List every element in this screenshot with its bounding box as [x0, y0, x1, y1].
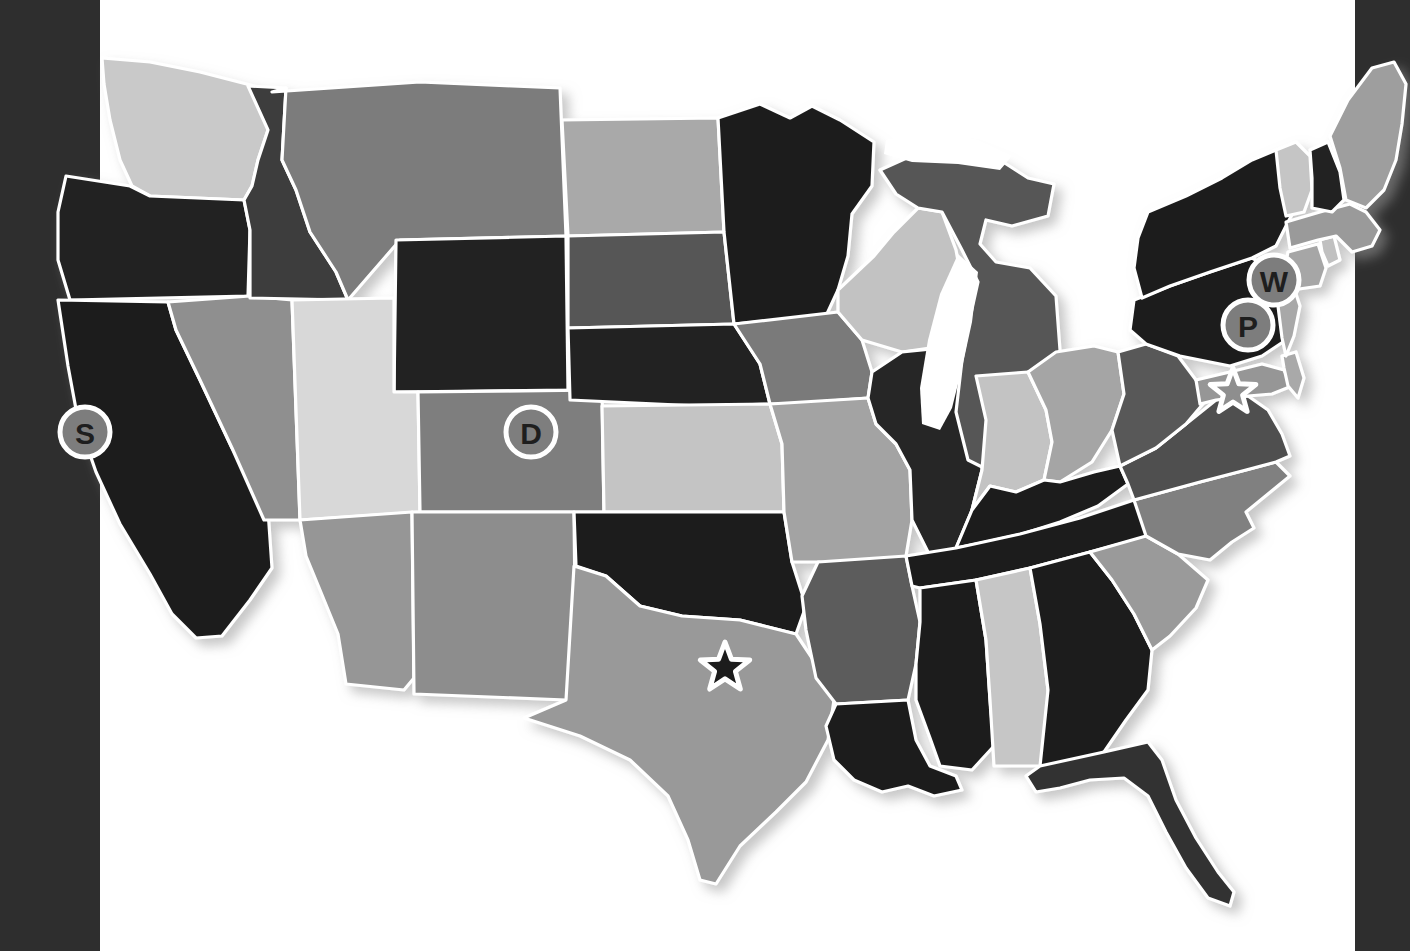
us-choropleth-map: SDWP — [0, 0, 1410, 951]
w-marker[interactable]: W — [1249, 255, 1299, 305]
state-WY[interactable] — [394, 236, 568, 392]
d-marker-label: D — [520, 417, 542, 450]
s-marker-label: S — [75, 417, 95, 450]
state-DE[interactable] — [1282, 352, 1304, 398]
state-SD[interactable] — [568, 232, 734, 328]
state-AR[interactable] — [802, 556, 920, 704]
s-marker[interactable]: S — [60, 407, 110, 457]
state-NE[interactable] — [568, 324, 770, 406]
state-FL[interactable] — [1026, 742, 1234, 906]
p-marker[interactable]: P — [1223, 300, 1273, 350]
state-CO[interactable] — [418, 390, 604, 512]
map-canvas: SDWP — [0, 0, 1410, 951]
map-svg: SDWP — [0, 0, 1410, 951]
p-marker-label: P — [1238, 310, 1258, 343]
state-ND[interactable] — [562, 118, 724, 236]
state-AZ[interactable] — [300, 512, 414, 690]
w-marker-label: W — [1260, 265, 1289, 298]
state-WA[interactable] — [102, 58, 272, 200]
state-KS[interactable] — [602, 404, 784, 512]
state-NM[interactable] — [412, 512, 576, 700]
